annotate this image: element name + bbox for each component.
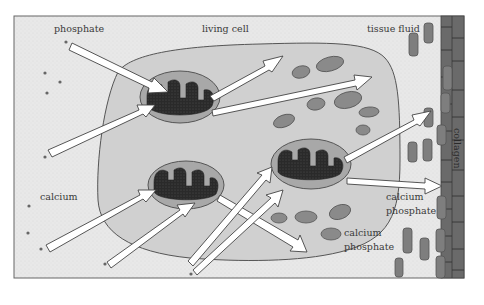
calcium-label: calcium [40, 191, 78, 202]
collagen-label: collagen [452, 128, 463, 169]
tissue-fluid-label: tissue fluid [367, 23, 420, 34]
phosphate-label: phosphate [54, 23, 104, 34]
bone-mineralization-diagram [0, 0, 484, 305]
mitochondrion-lower-left [148, 161, 224, 209]
calcium-phosphate-inner-label-line1: calcium [344, 227, 382, 238]
calcium-phosphate-outer-label-line2: phosphate [386, 205, 436, 216]
mitochondrion-upper [140, 71, 220, 123]
calcium-phosphate-outer-label-line1: calcium [386, 191, 424, 202]
calcium-phosphate-inner-label-line2: phosphate [344, 241, 394, 252]
mitochondrion-right [271, 139, 351, 189]
living-cell-label: living cell [202, 23, 249, 34]
